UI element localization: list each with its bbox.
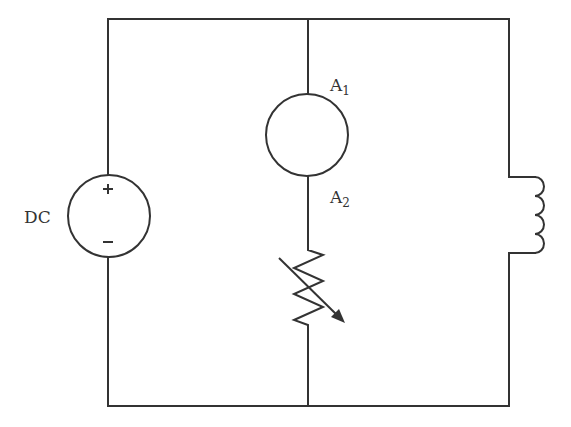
circuit-diagram: DC A1 A2	[0, 0, 571, 427]
variable-resistor	[279, 249, 345, 326]
terminal-a1-label: A1	[329, 75, 350, 98]
dc-label: DC	[24, 207, 51, 227]
variable-arrow-shaft	[279, 258, 338, 316]
inductor-coil	[535, 177, 544, 253]
wires	[108, 19, 509, 406]
inductor	[509, 177, 544, 253]
ammeter-circle	[266, 94, 348, 176]
dc-voltage-source: DC	[24, 175, 150, 257]
terminal-a2-label: A2	[329, 187, 350, 210]
